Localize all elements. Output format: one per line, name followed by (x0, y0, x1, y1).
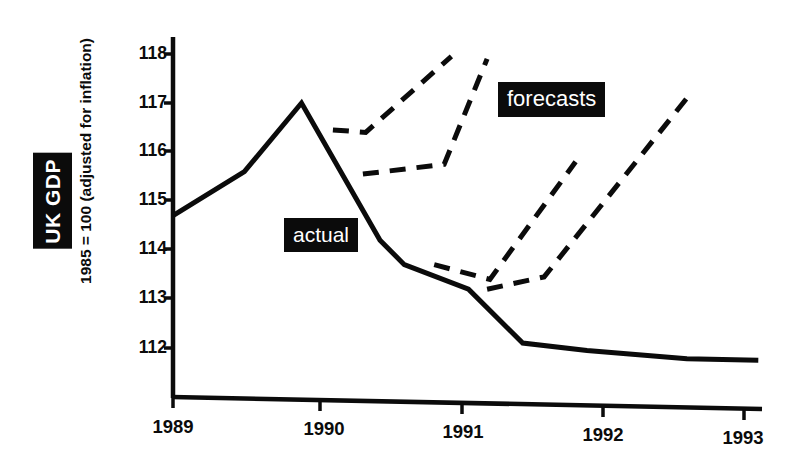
annotation-actual: actual (284, 218, 358, 252)
plot-area (0, 0, 801, 464)
series-line-forecast-3 (434, 162, 575, 280)
gdp-line-chart: UK GDP 1985 = 100 (adjusted for inflatio… (0, 0, 801, 464)
series-line-forecast-1 (333, 56, 452, 132)
x-axis-line (172, 397, 762, 409)
series-line-forecast-4 (487, 98, 687, 289)
annotation-forecasts: forecasts (498, 82, 605, 117)
series-line-actual (173, 103, 758, 360)
